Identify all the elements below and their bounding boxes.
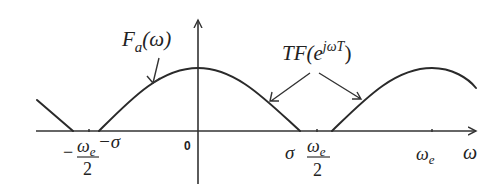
- tick-label-pos-half-den: 2: [313, 160, 322, 180]
- tick-label-neg-half-num: ωe: [77, 136, 96, 159]
- tf-pointer-right-arrow: [319, 73, 361, 99]
- spectrum-diagram: Fa(ω) TF(ejωT) − ωe 2 −σ 0 σ ωe 2 ωe ω: [0, 0, 501, 189]
- left-spectrum-curve: [37, 100, 73, 131]
- tf-pointer-left-arrow: [270, 73, 310, 101]
- tick-label-pos-sigma: σ: [285, 142, 295, 163]
- tick-label-pos-half-num: ωe: [307, 136, 326, 159]
- x-axis-label: ω: [463, 141, 477, 163]
- tick-label-neg-half-den: 2: [83, 159, 92, 179]
- origin-label: 0: [184, 139, 191, 153]
- tick-label-omega-e: ωe: [416, 144, 435, 167]
- tick-label-neg-sigma: −σ: [98, 131, 121, 152]
- tf-label: TF(ejωT): [282, 39, 351, 65]
- fa-pointer-arrow: [147, 58, 160, 83]
- fa-label: Fa(ω): [121, 27, 171, 55]
- tick-label-neg-half-sign: −: [63, 142, 73, 162]
